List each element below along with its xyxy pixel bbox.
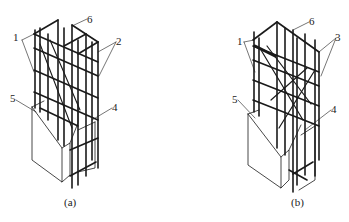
- callout-4: 4: [331, 104, 337, 115]
- scaffold-diagram-a: [0, 0, 174, 222]
- uprights-b: [254, 22, 319, 192]
- callout-6: 6: [87, 14, 93, 25]
- callout-3: 3: [335, 32, 341, 43]
- scaffold-diagram-b: [175, 0, 349, 222]
- callout-6: 6: [309, 16, 315, 27]
- leaders-a: [16, 19, 116, 120]
- callout-2: 2: [116, 36, 122, 47]
- callout-1: 1: [237, 36, 243, 47]
- callout-1: 1: [13, 32, 19, 43]
- callout-5: 5: [10, 93, 16, 104]
- callout-4: 4: [112, 102, 118, 113]
- caption-a: (a): [64, 196, 76, 208]
- callout-5: 5: [232, 94, 238, 105]
- ledgers-a: [34, 20, 98, 176]
- panel-b: 1 3 4 5 6 (b): [175, 0, 349, 222]
- panel-a: 1 2 4 5 6 (a): [0, 0, 174, 222]
- caption-b: (b): [291, 196, 304, 208]
